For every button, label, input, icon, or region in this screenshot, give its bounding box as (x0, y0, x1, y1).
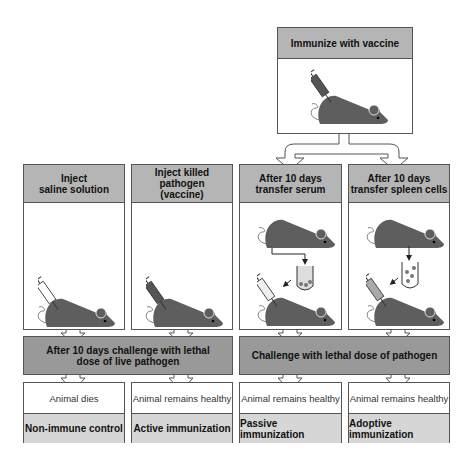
result-label: Non-immune control (24, 414, 124, 443)
serum-transfer-icon (245, 210, 337, 330)
column-transfer-spleen: After 10 days transfer spleen cells (348, 164, 450, 330)
column-title: After 10 days transfer spleen cells (349, 165, 449, 203)
top-immunize-panel: Immunize with vaccine (277, 27, 413, 134)
spleen-cell-transfer-icon (354, 210, 446, 330)
result-passive: Animal remains healthy Passive immunizat… (239, 382, 342, 443)
mouse-vaccine-icon (140, 275, 225, 330)
column-title: Inject saline solution (24, 165, 124, 203)
column-killed-pathogen: Inject killed pathogen (vaccine) (131, 164, 233, 330)
top-panel-title: Immunize with vaccine (278, 28, 412, 59)
result-label: Active immunization (132, 414, 232, 443)
result-non-immune: Animal dies Non-immune control (23, 382, 125, 443)
result-label: Passive immunization (240, 414, 341, 443)
result-adoptive: Animal remains healthy Adoptive immuniza… (348, 382, 450, 443)
column-transfer-serum: After 10 days transfer serum (239, 164, 342, 330)
column-title: After 10 days transfer serum (240, 165, 341, 203)
mouse-saline-icon (32, 275, 117, 330)
result-active: Animal remains healthy Active immunizati… (131, 382, 233, 443)
result-label: Adoptive immunization (349, 414, 449, 443)
result-outcome: Animal remains healthy (240, 383, 341, 414)
result-outcome: Animal remains healthy (349, 383, 449, 414)
challenge-bar-left: After 10 days challenge with lethal dose… (23, 336, 233, 375)
vaccinated-mouse-icon (303, 68, 388, 128)
challenge-bar-right: Challenge with lethal dose of pathogen (239, 336, 450, 375)
result-outcome: Animal dies (24, 383, 124, 414)
column-saline: Inject saline solution (23, 164, 125, 330)
result-outcome: Animal remains healthy (132, 383, 232, 414)
column-title: Inject killed pathogen (vaccine) (132, 165, 232, 203)
